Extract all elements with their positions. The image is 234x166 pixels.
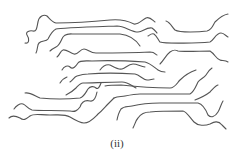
chain-3	[50, 34, 140, 51]
chain-14	[133, 111, 226, 129]
chain-1	[25, 15, 155, 43]
chain-diagram: (ii)	[0, 0, 234, 166]
chain-13	[117, 101, 223, 120]
chain-10	[100, 64, 145, 70]
figure-caption: (ii)	[0, 137, 234, 149]
chain-4b	[160, 50, 228, 64]
chain-1b	[166, 14, 228, 32]
chain-2	[36, 26, 157, 53]
chain-lines	[0, 0, 234, 135]
chain-3b	[57, 49, 157, 57]
chain-5	[70, 73, 154, 82]
chain-7	[25, 83, 101, 99]
chain-6	[60, 77, 67, 83]
chain-2b	[148, 33, 228, 43]
chain-12	[114, 68, 212, 98]
chain-15	[195, 85, 218, 100]
